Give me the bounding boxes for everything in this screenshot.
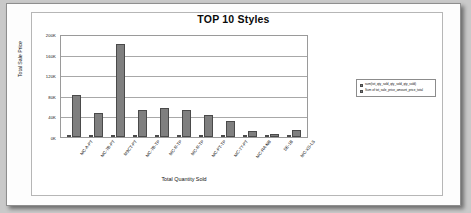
x-axis-tick-label: MC-R-TP <box>165 139 182 159</box>
bar-sale-price[interactable] <box>226 121 235 137</box>
bar-quantity[interactable] <box>177 135 181 137</box>
legend-item[interactable]: sum(tot_qty_sold_qty_sold_qty_sold) <box>360 83 432 87</box>
bar-sale-price[interactable] <box>116 44 125 137</box>
bar-quantity[interactable] <box>221 135 225 137</box>
plot-frame <box>60 35 308 138</box>
x-axis-tick-label: MC-A-PT <box>77 139 94 159</box>
plot-area <box>60 35 308 138</box>
legend-swatch-icon <box>360 90 363 93</box>
bar-quantity[interactable] <box>287 135 291 137</box>
y-axis-tick: 40K <box>48 115 56 120</box>
legend-label: sum(tot_qty_sold_qty_sold_qty_sold) <box>365 83 416 87</box>
bar-group <box>151 36 173 137</box>
x-axis-tick-label: MC-PT-TP <box>210 139 227 159</box>
screenshot-root: TOP 10 Styles 200K160K120K80K40K0K Total… <box>0 0 471 213</box>
bar-quantity[interactable] <box>155 135 159 137</box>
legend-item[interactable]: Sum of tot_sale_price_amount_price_total <box>360 89 432 93</box>
y-axis-tick: 0K <box>51 136 56 141</box>
x-axis-tick-label: MC-7B-TP <box>143 139 160 159</box>
bar-quantity[interactable] <box>89 135 93 137</box>
x-axis-tick-label: MC-RA-NB <box>254 139 271 159</box>
x-axis-tick-label: MC-7B-PT <box>99 139 116 159</box>
chart-title: TOP 10 Styles <box>7 13 460 25</box>
y-axis-tick: 80K <box>48 95 56 100</box>
bar-quantity[interactable] <box>111 135 115 137</box>
bar-sale-price[interactable] <box>160 108 169 137</box>
bar-sale-price[interactable] <box>204 115 213 137</box>
y-axis-labels: 200K160K120K80K40K0K <box>31 30 58 143</box>
legend-swatch-icon <box>360 84 363 87</box>
bar-quantity[interactable] <box>199 135 203 137</box>
x-axis-tick-label: MC-7Y-PT <box>232 139 249 159</box>
bar-sale-price[interactable] <box>72 95 81 137</box>
x-axis-tick-label: MC-R-TP <box>187 139 204 159</box>
bar-group <box>107 36 129 137</box>
legend-label: Sum of tot_sale_price_amount_price_total <box>365 89 423 93</box>
y-axis-tick: 160K <box>46 54 56 59</box>
chart-page-frame: TOP 10 Styles 200K160K120K80K40K0K Total… <box>6 3 461 206</box>
x-axis-title: Total Quantity Sold <box>60 176 308 182</box>
bar-sale-price[interactable] <box>270 134 279 137</box>
bar-sale-price[interactable] <box>138 110 147 137</box>
y-axis-tick: 120K <box>46 74 56 79</box>
bar-group <box>129 36 151 137</box>
bar-group <box>173 36 195 137</box>
bar-sale-price[interactable] <box>248 131 257 137</box>
bar-quantity[interactable] <box>243 135 247 137</box>
bar-group <box>63 36 85 137</box>
bar-quantity[interactable] <box>265 135 269 137</box>
bar-group-container <box>61 36 307 137</box>
bar-quantity[interactable] <box>67 135 71 137</box>
bar-group <box>217 36 239 137</box>
x-axis-labels: MC-A-PTMC-7B-PTM9CT-PTMC-7B-TPMC-R-TPMC-… <box>60 139 308 173</box>
chart-legend: sum(tot_qty_sold_qty_sold_qty_sold)Sum o… <box>356 79 436 97</box>
bar-group <box>195 36 217 137</box>
bar-group <box>239 36 261 137</box>
y-axis-title: Total Sale Price <box>17 24 23 94</box>
bar-group <box>283 36 305 137</box>
bar-sale-price[interactable] <box>182 110 191 137</box>
x-axis-tick-label: M9CT-PT <box>121 139 138 159</box>
bar-sale-price[interactable] <box>94 113 103 137</box>
bar-group <box>85 36 107 137</box>
y-axis-tick: 200K <box>46 33 56 38</box>
bar-quantity[interactable] <box>133 135 137 137</box>
bar-sale-price[interactable] <box>292 130 301 137</box>
bar-group <box>261 36 283 137</box>
x-axis-tick-label: SE-1B <box>276 139 293 159</box>
